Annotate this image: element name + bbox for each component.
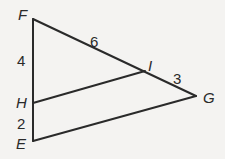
segment-hi [33,71,145,103]
segment-fg [33,19,196,96]
length-label-he: 2 [17,115,25,132]
segment-eg [33,96,196,141]
length-label-ig: 3 [173,70,181,87]
length-label-fh: 4 [17,52,25,69]
length-label-fi: 6 [90,33,98,50]
vertex-label-h: H [16,94,27,111]
vertex-label-g: G [203,89,215,106]
triangle-diagram: F 6 4 I 3 H G 2 E [0,0,225,159]
vertex-label-i: I [148,57,152,74]
vertex-label-f: F [18,6,28,23]
vertex-label-e: E [16,135,27,152]
